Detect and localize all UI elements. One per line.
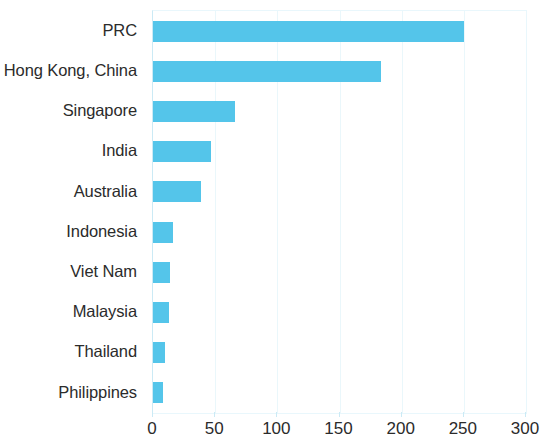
bar-row — [153, 172, 526, 212]
x-axis-tick-label: 250 — [449, 420, 477, 437]
y-axis-tick-label: Australia — [0, 171, 146, 211]
category-label-text: Singapore — [63, 102, 137, 119]
bar — [153, 181, 201, 202]
category-label-text: India — [102, 142, 137, 159]
x-axis-tick-label: 150 — [324, 420, 352, 437]
bar — [153, 222, 173, 243]
x-axis-tick-label: 100 — [262, 420, 290, 437]
category-label-text: Viet Nam — [70, 263, 137, 280]
x-axis-tick-label: 300 — [511, 420, 539, 437]
y-axis-tick-label: Malaysia — [0, 291, 146, 331]
bar-row — [153, 51, 526, 91]
x-axis-tick-mark — [525, 412, 526, 417]
y-axis-tick-label: India — [0, 131, 146, 171]
bar — [153, 342, 165, 363]
bar-row — [153, 212, 526, 252]
category-label-text: Philippines — [58, 384, 137, 401]
y-axis-tick-label: PRC — [0, 10, 146, 50]
bar-chart: PRCHong Kong, ChinaSingaporeIndiaAustral… — [0, 0, 541, 448]
x-axis-tick-mark — [339, 412, 340, 417]
x-axis-tick-label: 200 — [386, 420, 414, 437]
category-label-text: Indonesia — [66, 223, 137, 240]
bar-row — [153, 11, 526, 51]
plot-area — [152, 10, 527, 414]
x-axis-tick-mark — [463, 412, 464, 417]
bar-row — [153, 252, 526, 292]
category-label-text: PRC — [102, 22, 137, 39]
y-axis-tick-label: Singapore — [0, 90, 146, 130]
bar — [153, 61, 381, 82]
bar-row — [153, 132, 526, 172]
bar-row — [153, 333, 526, 373]
category-label-text: Australia — [74, 183, 137, 200]
bar-row — [153, 91, 526, 131]
bar — [153, 302, 169, 323]
x-axis: 050100150200250300 — [152, 412, 526, 448]
category-label-text: Hong Kong, China — [4, 62, 137, 79]
x-axis-tick-mark — [401, 412, 402, 417]
bar — [153, 141, 211, 162]
y-axis-tick-label: Thailand — [0, 332, 146, 372]
x-axis-tick-label: 50 — [205, 420, 224, 437]
category-label-text: Thailand — [75, 343, 138, 360]
bar-row — [153, 292, 526, 332]
category-label-text: Malaysia — [73, 303, 137, 320]
y-axis-tick-label: Viet Nam — [0, 251, 146, 291]
y-axis-category-labels: PRCHong Kong, ChinaSingaporeIndiaAustral… — [0, 10, 146, 412]
y-axis-tick-label: Philippines — [0, 372, 146, 412]
y-axis-tick-label: Indonesia — [0, 211, 146, 251]
bars-layer — [153, 11, 526, 413]
bar — [153, 262, 170, 283]
x-axis-tick-label: 0 — [147, 420, 156, 437]
bar — [153, 21, 464, 42]
x-axis-tick-mark — [276, 412, 277, 417]
bar — [153, 382, 163, 403]
bar — [153, 101, 235, 122]
x-axis-tick-mark — [152, 412, 153, 417]
bar-row — [153, 373, 526, 413]
x-axis-tick-mark — [214, 412, 215, 417]
y-axis-tick-label: Hong Kong, China — [0, 50, 146, 90]
